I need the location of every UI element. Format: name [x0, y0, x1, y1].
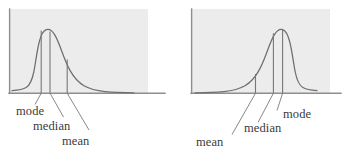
right-mean-label: mean	[196, 135, 224, 149]
right-median-label: median	[244, 121, 282, 135]
left-panel-background	[9, 9, 148, 93]
right-mode-leader	[277, 93, 283, 110]
right-panel-background	[191, 9, 330, 93]
left-mode-label: mode	[16, 104, 45, 118]
left-median-leader	[50, 93, 64, 117]
left-median-label: median	[33, 119, 71, 133]
skewed-distributions-figure: mode median mean mode median mean	[0, 0, 345, 166]
left-mean-label: mean	[62, 134, 90, 148]
left-chart-panel: mode median mean	[9, 9, 165, 148]
right-chart-panel: mode median mean	[191, 9, 341, 149]
left-mode-leader	[35, 93, 41, 104]
right-median-leader	[258, 93, 273, 122]
left-mean-leader	[67, 93, 89, 130]
right-mode-label: mode	[283, 107, 312, 121]
